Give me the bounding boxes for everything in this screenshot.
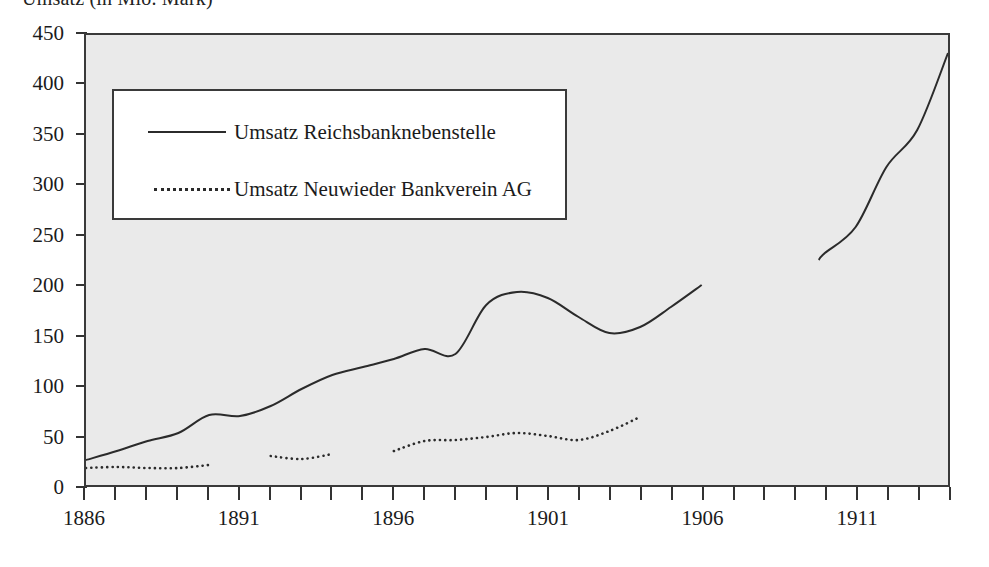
x-tick-mark [114, 487, 116, 500]
chart-figure: Umsatz (in Mio. Mark) 050100150200250300… [0, 0, 989, 567]
legend-entry-reichsbanknebenstelle: Umsatz Reichsbanknebenstelle [114, 119, 565, 145]
x-tick-mark [794, 487, 796, 500]
x-tick-mark [423, 487, 425, 500]
x-tick-mark [176, 487, 178, 500]
legend-entry-neuwieder-bankverein: Umsatz Neuwieder Bankverein AG [114, 176, 565, 202]
legend-label: Umsatz Neuwieder Bankverein AG [234, 179, 532, 200]
x-tick-label: 1906 [682, 508, 724, 529]
legend-label: Umsatz Reichsbanknebenstelle [234, 122, 496, 143]
x-tick-mark [392, 487, 394, 500]
x-tick-mark [918, 487, 920, 500]
x-tick-mark [547, 487, 549, 500]
series-line-reichsbanknebenstelle-seg0 [86, 285, 702, 460]
x-tick-mark [330, 487, 332, 500]
series-line-neuwieder-bankverein-seg1 [271, 454, 333, 459]
x-tick-label: 1896 [372, 508, 414, 529]
x-tick-mark [207, 487, 209, 500]
x-tick-label: 1911 [837, 508, 878, 529]
x-tick-mark [763, 487, 765, 500]
x-tick-mark [887, 487, 889, 500]
x-tick-mark [485, 487, 487, 500]
legend-dotted-line-icon [144, 183, 230, 195]
x-tick-mark [361, 487, 363, 500]
x-tick-mark [640, 487, 642, 500]
x-tick-mark [578, 487, 580, 500]
x-tick-mark [671, 487, 673, 500]
x-tick-mark [454, 487, 456, 500]
x-tick-mark [145, 487, 147, 500]
series-line-neuwieder-bankverein-seg2 [394, 417, 640, 451]
x-tick-label: 1891 [218, 508, 260, 529]
x-tick-mark [733, 487, 735, 500]
chart-legend: Umsatz Reichsbanknebenstelle Umsatz Neuw… [112, 89, 567, 220]
x-tick-mark [856, 487, 858, 500]
x-tick-mark [949, 487, 951, 500]
series-line-neuwieder-bankverein-seg0 [86, 465, 209, 468]
x-tick-mark [702, 487, 704, 500]
x-tick-mark [609, 487, 611, 500]
x-tick-label: 1901 [527, 508, 569, 529]
x-tick-mark [516, 487, 518, 500]
x-tick-mark [269, 487, 271, 500]
x-tick-mark [238, 487, 240, 500]
legend-solid-line-icon [144, 126, 230, 138]
x-tick-label: 1886 [63, 508, 105, 529]
series-line-reichsbanknebenstelle-seg1 [819, 53, 948, 260]
x-tick-mark [300, 487, 302, 500]
x-tick-mark [825, 487, 827, 500]
x-tick-mark [83, 487, 85, 500]
